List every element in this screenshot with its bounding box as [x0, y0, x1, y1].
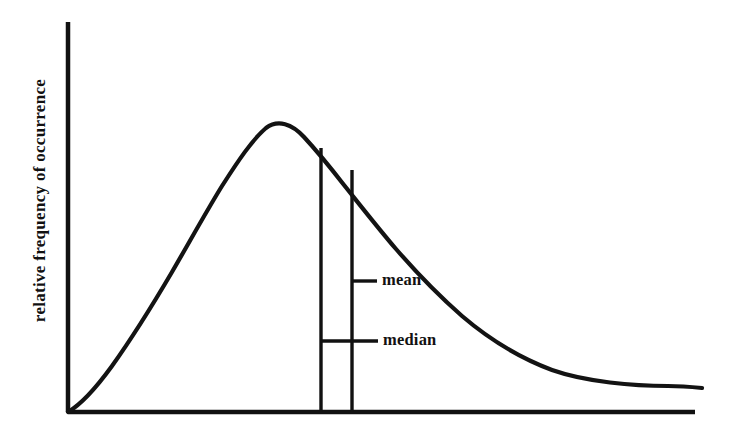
median-annotation-label: median — [383, 332, 436, 349]
mean-annotation-label: mean — [382, 272, 421, 289]
distribution-curve — [68, 123, 702, 412]
skewed-distribution-figure: relative frequency of occurrence mean me… — [0, 0, 738, 437]
y-axis-title: relative frequency of occurrence — [31, 21, 48, 381]
chart-canvas — [0, 0, 738, 437]
